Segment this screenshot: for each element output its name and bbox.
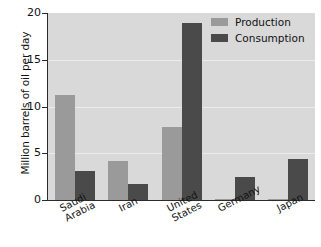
legend-label: Consumption <box>235 32 305 44</box>
x-axis-tick-label: Japan <box>275 191 305 213</box>
legend-item-consumption[interactable]: Consumption <box>211 30 305 45</box>
y-axis-tick-mark <box>42 13 48 14</box>
y-axis-tick-mark <box>42 60 48 61</box>
legend-label: Production <box>235 16 291 28</box>
y-axis-tick-mark <box>42 153 48 154</box>
y-axis-tick-mark <box>42 200 48 201</box>
legend-swatch-production <box>211 18 228 26</box>
bar-chart: Million barrels of oil per day 05101520 … <box>0 0 321 247</box>
legend-swatch-consumption <box>211 34 228 42</box>
legend-item-production[interactable]: Production <box>211 14 305 29</box>
x-axis-tick-label: Iran <box>117 195 139 214</box>
y-axis-tick-mark <box>42 107 48 108</box>
x-axis-tick-label: United States <box>165 189 204 224</box>
x-axis-tick-label: Germany <box>216 183 262 214</box>
x-axis-tick-label: Saudi Arabia <box>58 189 97 223</box>
chart-legend: ProductionConsumption <box>211 14 305 46</box>
